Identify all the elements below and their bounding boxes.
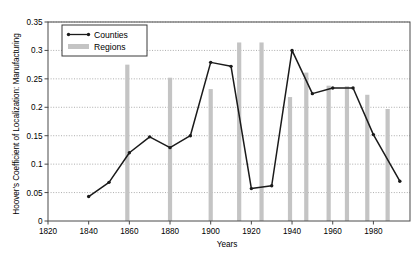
- counties-line: [89, 50, 400, 196]
- y-axis-ticks: 00.050.10.150.20.250.30.35: [27, 18, 48, 226]
- svg-text:1960: 1960: [324, 227, 343, 236]
- svg-text:0.1: 0.1: [31, 160, 43, 169]
- svg-text:0: 0: [38, 217, 43, 226]
- x-axis-ticks: 182018401860188019001920194019601980: [39, 221, 383, 236]
- svg-text:Regions: Regions: [94, 42, 126, 52]
- svg-text:0.05: 0.05: [27, 189, 43, 198]
- svg-text:1860: 1860: [120, 227, 139, 236]
- svg-text:1920: 1920: [242, 227, 261, 236]
- plot-area: 182018401860188019001920194019601980 00.…: [0, 0, 420, 257]
- svg-text:1900: 1900: [202, 227, 221, 236]
- regions-bars: [125, 42, 390, 221]
- x-axis-label-wrap: Years: [0, 240, 420, 249]
- svg-text:0.3: 0.3: [31, 46, 43, 55]
- svg-text:1820: 1820: [39, 227, 58, 236]
- chart-legend: CountiesRegions: [62, 25, 147, 56]
- svg-text:Counties: Counties: [94, 30, 128, 40]
- svg-text:1980: 1980: [364, 227, 383, 236]
- x-axis-label: Years: [217, 240, 238, 249]
- svg-text:0.25: 0.25: [27, 75, 43, 84]
- svg-text:1940: 1940: [283, 227, 302, 236]
- svg-text:1840: 1840: [80, 227, 99, 236]
- chart-figure: Hoover's Coefficient of Localization: Ma…: [0, 0, 420, 257]
- svg-text:0.15: 0.15: [27, 132, 43, 141]
- counties-markers: [87, 49, 402, 199]
- svg-text:0.2: 0.2: [31, 103, 43, 112]
- svg-text:0.35: 0.35: [27, 18, 43, 27]
- svg-text:1880: 1880: [161, 227, 180, 236]
